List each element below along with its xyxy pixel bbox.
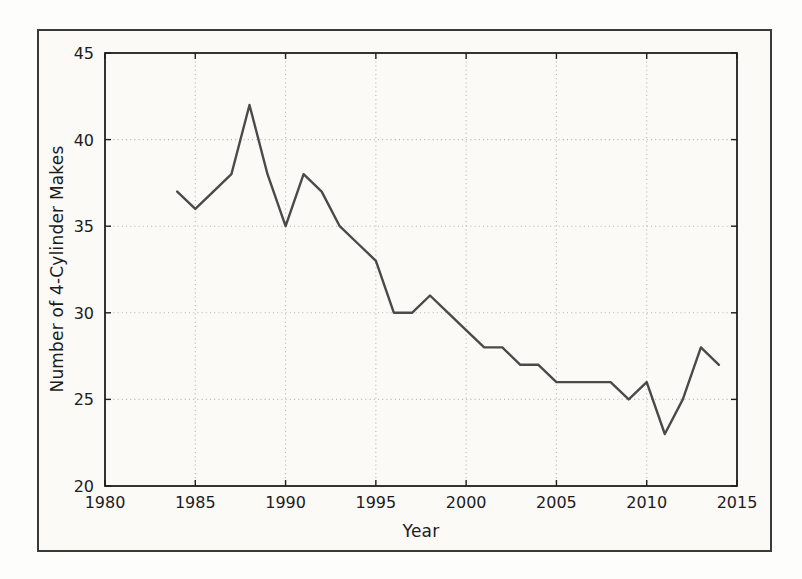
- y-tick-label: 30: [74, 304, 94, 323]
- grid-lines: [105, 53, 737, 486]
- x-axis-title: Year: [403, 521, 440, 541]
- x-tick-label: 2000: [446, 493, 487, 512]
- y-axis-title: Number of 4-Cylinder Makes: [47, 145, 67, 392]
- y-tick-label: 40: [74, 131, 94, 150]
- tick-labels: 1980198519901995200020052010201520253035…: [74, 44, 758, 512]
- axes-spines: [105, 53, 737, 486]
- tick-marks: [105, 53, 737, 486]
- x-tick-label: 2015: [717, 493, 758, 512]
- y-tick-label: 20: [74, 477, 94, 496]
- x-tick-label: 1990: [265, 493, 306, 512]
- x-tick-label: 2005: [536, 493, 577, 512]
- x-tick-label: 2010: [626, 493, 667, 512]
- y-tick-label: 45: [74, 44, 94, 63]
- plot-box: [105, 53, 737, 486]
- series-line: [177, 105, 719, 434]
- page: 1980198519901995200020052010201520253035…: [0, 0, 802, 579]
- x-tick-label: 1985: [175, 493, 216, 512]
- x-tick-label: 1995: [355, 493, 396, 512]
- y-tick-label: 25: [74, 390, 94, 409]
- line-chart: 1980198519901995200020052010201520253035…: [0, 0, 802, 579]
- y-tick-label: 35: [74, 217, 94, 236]
- data-series: [177, 105, 719, 434]
